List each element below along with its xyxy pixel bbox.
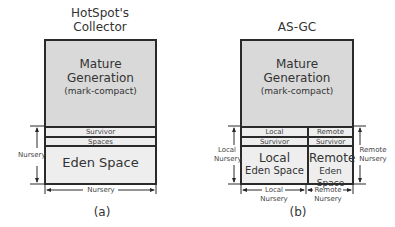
label-line: Local [258, 186, 290, 195]
label-line: Nursery [214, 155, 240, 164]
label-line: Nursery [356, 155, 390, 164]
left-nursery-label: Local Nursery [214, 146, 240, 164]
label-line: Nursery [312, 195, 344, 204]
caption-b: (b) [286, 205, 310, 219]
bottom-remote-nursery-label: Remote Nursery [312, 186, 344, 204]
label-line: Nursery [258, 195, 290, 204]
label-line: Local [214, 146, 240, 155]
label-line: Remote [312, 186, 344, 195]
label-line: Remote [356, 146, 390, 155]
bottom-local-nursery-label: Local Nursery [258, 186, 290, 204]
right-nursery-label: Remote Nursery [356, 146, 390, 164]
